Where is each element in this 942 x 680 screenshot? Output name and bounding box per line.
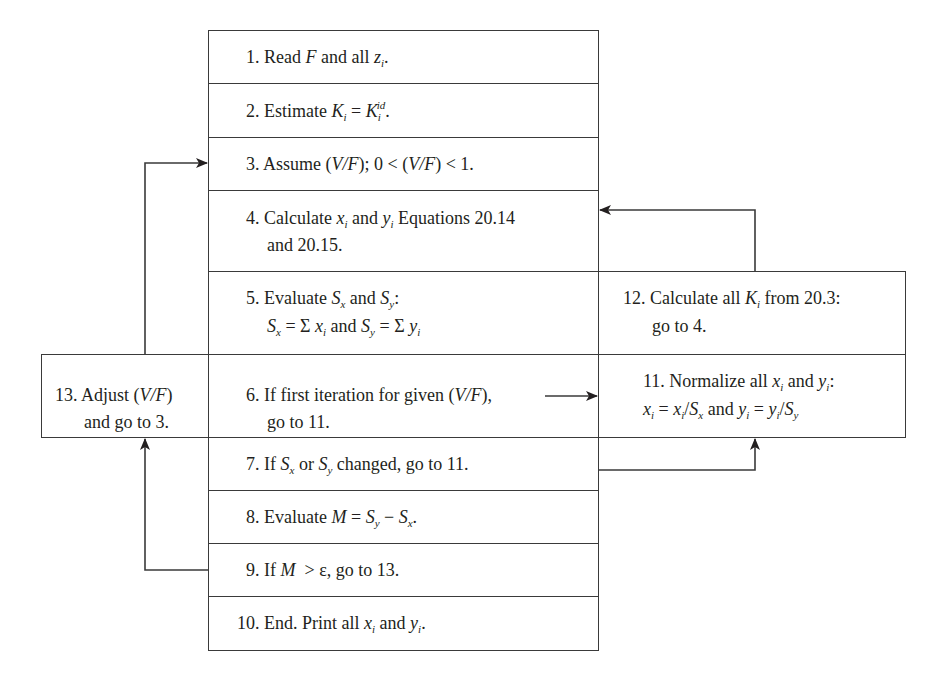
step-5-text: 5. Evaluate Sx and Sy: [246, 285, 399, 311]
step-11-text: 11. Normalize all xi and yi: [643, 368, 834, 394]
step-11-formula: xi = xi/Sx and yi = yi/Sy [643, 396, 798, 422]
step-4-text: 4. Calculate xi and yi Equations 20.14 [246, 205, 515, 231]
step-7-text: 7. If Sx or Sy changed, go to 11. [246, 451, 469, 477]
step-6-text: 6. If first iteration for given (V/F), [246, 382, 492, 408]
step-9-text: 9. If M > ε, go to 13. [246, 557, 399, 583]
step-5-formula: Sx = Σ xi and Sy = Σ yi [267, 313, 420, 339]
step-13-text-line2: and go to 3. [84, 409, 169, 435]
step-12-text: 12. Calculate all Ki from 20.3: [623, 285, 841, 311]
arrow-13-to-3 [145, 163, 207, 354]
arrow-9-to-13 [145, 439, 208, 570]
arrow-7-to-11 [599, 439, 755, 470]
step-3-text: 3. Assume (V/F); 0 < (V/F) < 1. [246, 151, 474, 177]
step-1-text: 1. Read F and all zi. [246, 44, 389, 70]
step-10-text: 10. End. Print all xi and yi. [237, 610, 426, 636]
step-2-text: 2. Estimate Ki = Kiid. [246, 98, 390, 124]
step-12-text-line2: go to 4. [652, 313, 707, 339]
step-4-text-line2: and 20.15. [267, 232, 343, 258]
connector-arrows [0, 0, 942, 680]
step-6-text-line2: go to 11. [267, 409, 330, 435]
step-8-text: 8. Evaluate M = Sy − Sx. [246, 504, 417, 530]
arrow-12-to-4 [600, 210, 755, 271]
step-13-text: 13. Adjust (V/F) [55, 382, 173, 408]
